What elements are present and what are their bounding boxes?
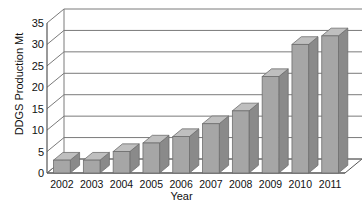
bar-2007: [203, 116, 229, 173]
bar-2006: [173, 129, 199, 173]
bar-2005: [143, 135, 169, 173]
bar-2010: [292, 37, 318, 173]
x-tick-2009: 2009: [259, 178, 282, 190]
bar-2004: [113, 144, 139, 173]
x-tick-2002: 2002: [50, 178, 73, 190]
bar-2009: [262, 69, 288, 173]
bar-2008: [232, 103, 258, 173]
x-tick-2011: 2011: [319, 178, 342, 190]
x-tick-2003: 2003: [80, 178, 103, 190]
bar-2011: [322, 28, 348, 173]
x-tick-2008: 2008: [229, 178, 252, 190]
x-tick-2010: 2010: [289, 178, 312, 190]
x-tick-2005: 2005: [140, 178, 163, 190]
x-tick-2004: 2004: [110, 178, 133, 190]
x-tick-2007: 2007: [199, 178, 222, 190]
chart-container: DDGS Production Mt Year 05101520253035 2…: [0, 0, 363, 211]
x-tick-2006: 2006: [169, 178, 192, 190]
